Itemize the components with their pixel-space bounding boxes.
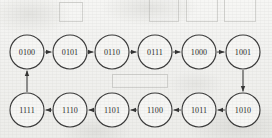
state-node-circle [10,35,44,69]
state-node-circle [95,35,129,69]
state-node-circle [53,35,87,69]
state-node-circle [95,93,129,127]
diagram-canvas: 0100010101100111100010011010101111001101… [0,0,272,138]
state-node-circle [182,35,216,69]
node-layer [10,35,260,127]
state-node-circle [138,35,172,69]
state-node-circle [182,93,216,127]
state-node-circle [226,35,260,69]
state-node-circle [138,93,172,127]
state-node-circle [226,93,260,127]
state-node-circle [53,93,87,127]
diagram-graphics [0,0,272,138]
state-node-circle [10,93,44,127]
